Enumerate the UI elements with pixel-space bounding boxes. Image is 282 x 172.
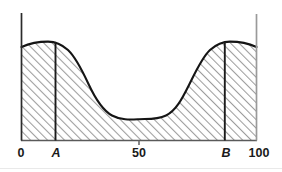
shaded-area-under-curve bbox=[22, 42, 257, 141]
x-tick-label-100: 100 bbox=[248, 147, 269, 160]
x-tick-label-a: A bbox=[51, 147, 60, 160]
bottom-divider-rule bbox=[0, 168, 282, 169]
figure-container: 0 A 50 B 100 bbox=[0, 0, 282, 172]
x-tick-label-b: B bbox=[221, 147, 230, 160]
x-tick-label-50: 50 bbox=[132, 147, 146, 160]
x-tick-label-0: 0 bbox=[17, 147, 24, 160]
